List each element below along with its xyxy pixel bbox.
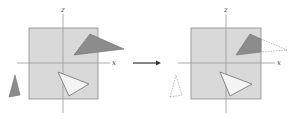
transform-arrow [133,61,161,66]
x-axis-label: x [112,59,116,67]
z-axis-label: z [60,6,65,14]
x-axis-label: x [277,59,281,67]
before-panel: z x [9,6,124,113]
after-panel: z x [170,6,287,113]
clipping-diagram: z x z x [0,0,294,119]
clipped-away-outline [261,39,287,52]
z-axis-label: z [223,6,228,14]
outside-triangle [9,75,20,97]
arrow-head-icon [156,61,161,66]
culled-triangle-outline [170,75,182,97]
